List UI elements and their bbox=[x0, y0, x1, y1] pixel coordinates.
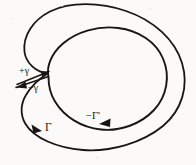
label-big-gamma: Γ bbox=[45, 122, 52, 134]
scan-speck bbox=[12, 18, 13, 19]
scan-speck bbox=[172, 118, 173, 119]
minus-gamma-prime-arrowhead bbox=[99, 119, 111, 128]
label-minus-gamma: −γ bbox=[28, 83, 38, 93]
scan-speck bbox=[62, 6, 63, 7]
scan-speck bbox=[96, 157, 97, 158]
label-minus-gamma-prime: −Γ' bbox=[86, 111, 100, 122]
label-plus-gamma: +γ bbox=[19, 66, 29, 76]
scan-speck bbox=[150, 8, 151, 9]
inner-contour-gamma-prime bbox=[48, 27, 167, 129]
contour-diagram-figure: +γ −γ −Γ' Γ bbox=[0, 0, 196, 165]
